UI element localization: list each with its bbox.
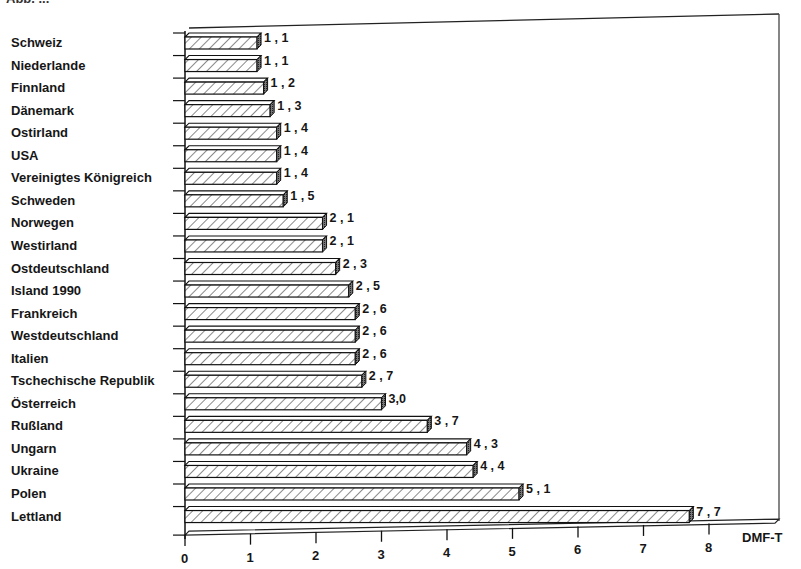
bar: 7 , 7 [185, 505, 721, 523]
bar: 1 , 4 [185, 144, 308, 162]
x-tick-label: 5 [509, 544, 516, 559]
value-label: 1 , 4 [284, 144, 308, 158]
bar: 2 , 3 [185, 257, 367, 275]
value-label: 2 , 3 [343, 257, 367, 271]
value-label: 2 , 6 [362, 302, 386, 316]
bar: 2 , 6 [185, 324, 387, 342]
x-tick-label: 1 [247, 550, 254, 565]
value-label: 1 , 4 [284, 166, 308, 180]
value-label: 2 , 5 [356, 279, 380, 293]
value-label: 5 , 1 [526, 482, 550, 496]
bar: 1 , 4 [185, 166, 308, 184]
bar: 1 , 4 [185, 121, 308, 139]
value-label: 2 , 7 [369, 369, 393, 383]
value-label: 4 , 3 [474, 437, 498, 451]
x-tick-label: 7 [640, 541, 647, 556]
bar: 3,0 [185, 392, 406, 410]
bar: 2 , 1 [185, 234, 354, 252]
value-label: 1 , 2 [271, 76, 295, 90]
bar: 1 , 1 [185, 54, 288, 72]
value-label: 4 , 4 [480, 459, 504, 473]
x-axis-unit-label: DMF-T [742, 530, 782, 545]
bar: 3 , 7 [185, 414, 459, 432]
x-tick-label: 4 [443, 545, 451, 560]
bar: 2 , 6 [185, 347, 387, 365]
bar: 2 , 1 [185, 211, 354, 229]
value-label: 1 , 5 [290, 189, 314, 203]
x-tick-label: 3 [378, 547, 385, 562]
value-label: 7 , 7 [696, 505, 720, 519]
x-tick-label: 6 [574, 542, 581, 557]
bar: 4 , 3 [185, 437, 498, 455]
bar: 1 , 3 [185, 99, 302, 117]
value-label: 1 , 4 [284, 121, 308, 135]
value-label: 1 , 3 [277, 99, 301, 113]
value-label: 1 , 1 [264, 31, 288, 45]
bars-group: 1 , 11 , 11 , 21 , 31 , 41 , 41 , 41 , 5… [185, 31, 721, 523]
value-label: 2 , 1 [330, 234, 354, 248]
bar: 1 , 2 [185, 76, 295, 94]
bar: 2 , 7 [185, 369, 393, 387]
bar: 1 , 5 [185, 189, 315, 207]
bar: 5 , 1 [185, 482, 550, 500]
value-label: 3 , 7 [434, 414, 458, 428]
value-label: 3,0 [389, 392, 406, 406]
bar-chart: 1 , 11 , 11 , 21 , 31 , 41 , 41 , 41 , 5… [0, 0, 801, 569]
value-label: 2 , 6 [362, 347, 386, 361]
x-tick-label: 0 [181, 551, 188, 566]
bar: 4 , 4 [185, 459, 505, 477]
value-label: 1 , 1 [264, 54, 288, 68]
value-label: 2 , 6 [362, 324, 386, 338]
bar: 2 , 6 [185, 302, 387, 320]
bar: 1 , 1 [185, 31, 288, 49]
x-tick-label: 8 [705, 540, 712, 555]
bar: 2 , 5 [185, 279, 380, 297]
value-label: 2 , 1 [330, 211, 354, 225]
x-tick-label: 2 [312, 548, 319, 563]
